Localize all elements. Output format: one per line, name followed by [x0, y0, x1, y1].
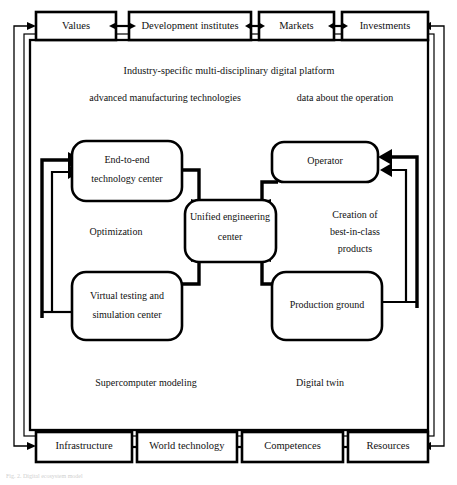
node-unified-line1: Unified engineering: [190, 211, 270, 222]
node-operator-label: Operator: [307, 155, 343, 166]
node-unified-line2: center: [218, 231, 243, 242]
node-virtual-testing-simulation-center[interactable]: [72, 272, 182, 340]
platform-right-input-label: data about the operation: [297, 92, 393, 103]
node-operator-group: Operator: [272, 142, 378, 182]
left-loop-inner: [52, 172, 68, 312]
box-development-institutes-label: Development institutes: [141, 20, 238, 31]
platform-left-input-label: advanced manufacturing technologies: [89, 92, 241, 103]
node-end-to-end-line1: End-to-end: [105, 154, 150, 165]
platform-title: Industry-specific multi-disciplinary dig…: [124, 65, 335, 76]
label-digital-twin: Digital twin: [296, 377, 344, 388]
label-creation-line3: products: [338, 243, 373, 254]
box-investments-label: Investments: [360, 20, 411, 31]
box-world-technology-label: World technology: [149, 440, 225, 451]
right-feedback-loop: [378, 149, 417, 308]
box-values-label: Values: [62, 20, 90, 31]
conn-operator-to-unified: [262, 182, 278, 199]
box-competences-label: Competences: [264, 440, 321, 451]
figure-caption: Fig. 2. Digital ecosystem model: [6, 472, 456, 480]
right-loop-outer: [392, 157, 417, 308]
arrow-into-values: [27, 22, 36, 30]
outer-right-loop: [431, 26, 444, 446]
node-virtual-line1: Virtual testing and: [90, 290, 164, 301]
top-row-group: Values Development institutes Markets In…: [36, 12, 428, 40]
outer-left-loop: [14, 26, 27, 446]
label-creation-line1: Creation of: [332, 209, 378, 220]
right-loop-inner-arrow: [380, 163, 392, 177]
label-optimization: Optimization: [90, 226, 143, 237]
node-unified-engineering-center-group: Unified engineering center: [185, 200, 276, 262]
node-end-to-end-technology-center-group: End-to-end technology center: [72, 141, 182, 201]
conn-endtoend-to-unified: [182, 170, 199, 199]
arrow-into-infrastructure: [27, 442, 36, 450]
node-end-to-end-line2: technology center: [91, 173, 163, 184]
right-loop-inner: [392, 170, 406, 302]
label-supercomputer-modeling: Supercomputer modeling: [95, 377, 196, 388]
box-infrastructure-label: Infrastructure: [55, 440, 112, 451]
left-loop-outer: [42, 160, 68, 318]
conn-virtual-to-unified: [182, 262, 199, 284]
node-virtual-testing-group: Virtual testing and simulation center: [72, 272, 182, 340]
box-resources-label: Resources: [366, 440, 409, 451]
node-production-ground-group: Production ground: [272, 272, 382, 340]
box-markets-label: Markets: [279, 20, 313, 31]
node-production-ground-label: Production ground: [290, 299, 365, 310]
node-virtual-line2: simulation center: [92, 309, 162, 320]
bottom-row-group: Infrastructure World technology Competen…: [36, 432, 428, 462]
right-loop-outer-arrow: [378, 149, 392, 165]
node-end-to-end-technology-center[interactable]: [72, 141, 182, 201]
label-creation-line2: best-in-class: [330, 226, 380, 237]
figure-root: Values Development institutes Markets In…: [0, 0, 457, 485]
ecosystem-diagram: Values Development institutes Markets In…: [0, 0, 457, 485]
